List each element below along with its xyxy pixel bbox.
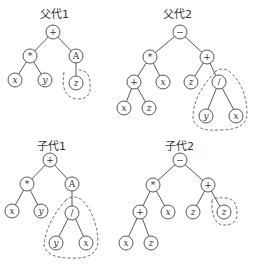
node: x	[160, 77, 165, 87]
node: *	[151, 180, 156, 190]
node: z	[148, 238, 154, 248]
node: *	[28, 51, 33, 61]
node: x	[233, 111, 238, 121]
node: y	[202, 111, 209, 121]
node: +	[203, 52, 211, 62]
tree-child-1: 子代1 + * A x y / y x	[5, 140, 98, 258]
node: z	[73, 78, 79, 88]
tree-parent-1: 父代1 + * A x y z	[8, 8, 90, 99]
tree-parent-2: 父代2 − * + + x z / x z y x	[117, 8, 247, 130]
node-root: −	[176, 155, 184, 165]
node: +	[136, 207, 144, 217]
node: A	[68, 179, 76, 189]
tree-child-2: 子代2 − * + + x z z x z	[119, 140, 237, 250]
node-root: +	[46, 155, 54, 165]
node: z	[188, 77, 194, 87]
node: x	[12, 75, 17, 85]
tree-title: 父代1	[40, 8, 69, 21]
node: x	[121, 103, 126, 113]
node: y	[37, 206, 44, 216]
node: x	[83, 238, 88, 248]
node: *	[148, 52, 153, 62]
tree-title: 子代2	[165, 140, 194, 153]
node: x	[123, 238, 128, 248]
tree-title: 父代2	[163, 8, 192, 21]
node: x	[9, 206, 14, 216]
node: x	[165, 207, 170, 217]
node: A	[72, 51, 80, 61]
node: y	[52, 238, 59, 248]
node: y	[41, 75, 48, 85]
node: z	[146, 103, 152, 113]
node: z	[221, 207, 227, 217]
tree-title: 子代1	[37, 140, 66, 153]
node: z	[190, 207, 196, 217]
crossover-diagram: 父代1 + * A x y z 父代2 − * + + x z / x z	[0, 0, 253, 267]
node-root: −	[176, 27, 184, 37]
node: *	[25, 179, 30, 189]
node: +	[204, 180, 212, 190]
node-root: +	[49, 27, 57, 37]
node: +	[130, 77, 138, 87]
